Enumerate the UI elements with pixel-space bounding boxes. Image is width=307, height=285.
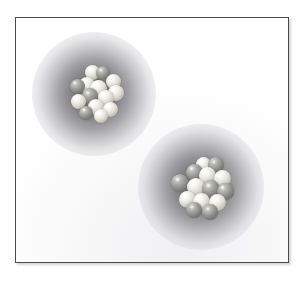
nucleon-neutron (186, 202, 202, 218)
illustration-frame (15, 17, 289, 263)
nucleon-neutron (202, 204, 218, 220)
nucleon-proton (94, 109, 108, 123)
nucleus (172, 158, 230, 216)
nucleon-neutron (171, 174, 189, 192)
nucleon-neutron (79, 106, 93, 120)
nucleus (67, 67, 121, 121)
illustration-canvas (0, 0, 307, 285)
